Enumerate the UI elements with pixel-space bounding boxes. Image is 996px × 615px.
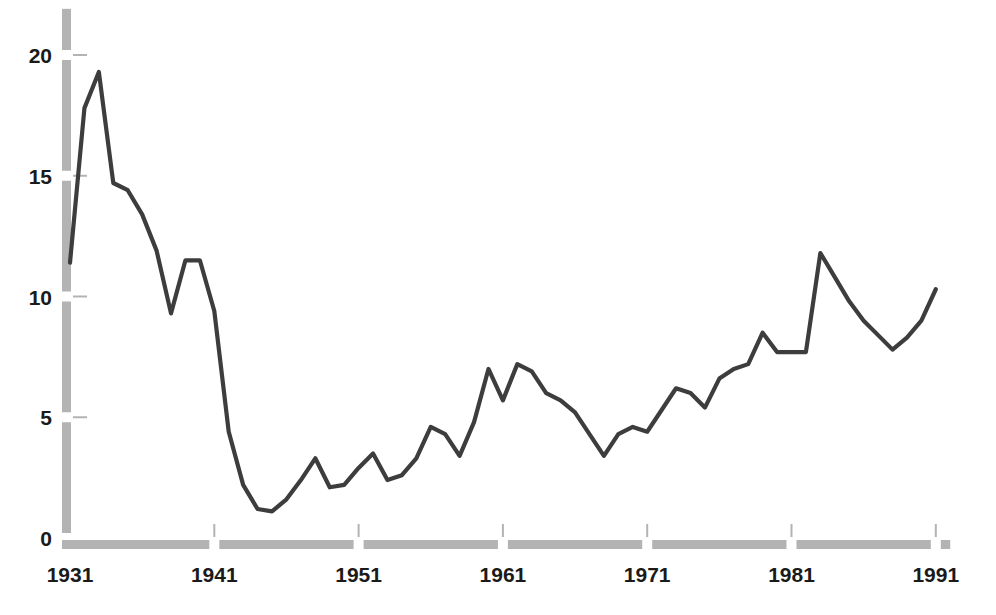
y-axis-band-segment	[62, 9, 71, 50]
x-axis-tick-label: 1931	[47, 563, 94, 586]
y-axis-band-segment	[62, 422, 71, 533]
y-axis-tick-label: 0	[40, 527, 52, 550]
x-axis-band-segment	[62, 540, 209, 549]
x-axis: 1931194119511961197119811991	[47, 524, 960, 586]
chart-container: 05101520 1931194119511961197119811991	[0, 0, 996, 615]
y-axis-band-segment	[62, 181, 71, 292]
y-axis-band-segment	[62, 302, 71, 413]
y-axis-band-segment	[62, 60, 71, 171]
y-axis-tick-label: 10	[29, 286, 52, 309]
x-axis-band-segment	[652, 540, 786, 549]
y-axis-tick-label: 5	[40, 406, 52, 429]
x-axis-tick-label: 1981	[768, 563, 815, 586]
x-axis-tick-label: 1961	[480, 563, 527, 586]
x-axis-tick-label: 1971	[624, 563, 671, 586]
y-axis-tick-label: 20	[29, 44, 52, 67]
x-axis-tick-label: 1941	[191, 563, 238, 586]
x-axis-band-segment	[797, 540, 931, 549]
x-axis-tick-label: 1951	[335, 563, 382, 586]
y-axis-tick-label: 15	[29, 165, 53, 188]
x-axis-band-segment	[508, 540, 642, 549]
plot-area	[70, 72, 936, 512]
x-axis-band-segment	[941, 540, 950, 549]
x-axis-tick-label: 1991	[912, 563, 959, 586]
y-axis: 05101520	[29, 9, 87, 550]
x-axis-band-segment	[219, 540, 353, 549]
data-series-line	[70, 72, 936, 512]
x-axis-band-segment	[364, 540, 498, 549]
line-chart: 05101520 1931194119511961197119811991	[0, 0, 996, 615]
